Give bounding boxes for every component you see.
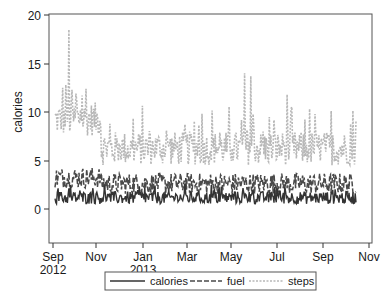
x-tick-label: Mar [177,250,198,264]
legend-label-steps: steps [288,275,315,287]
x-tick-label: Jan [133,250,152,264]
x-tick-label: Nov [85,250,106,264]
legend-label-calories: calories [150,275,188,287]
y-tick-label: 5 [34,155,41,169]
y-tick-label: 15 [28,58,42,72]
x-tick-label: Sep [312,250,334,264]
line-chart: 20 15 10 5 0 calories Sep 2012 Nov Jan 2… [0,0,389,304]
series-fuel-line [55,168,356,194]
y-tick-label: 20 [28,9,42,23]
y-tick-label: 10 [28,106,42,120]
series-layer [55,30,356,204]
x-tick-label: Nov [358,250,379,264]
x-tick-label: Jul [269,250,284,264]
legend: calories fuel steps [105,272,316,290]
y-axis: 20 15 10 5 0 calories [11,9,49,217]
series-steps-line [55,30,356,166]
x-tick-label: May [220,250,243,264]
x-tick-sublabel: 2012 [40,263,67,277]
y-axis-label: calories [11,91,25,132]
legend-label-fuel: fuel [227,275,245,287]
x-tick-label: Sep [42,250,64,264]
series-calories-line [55,184,356,204]
y-tick-label: 0 [34,203,41,217]
